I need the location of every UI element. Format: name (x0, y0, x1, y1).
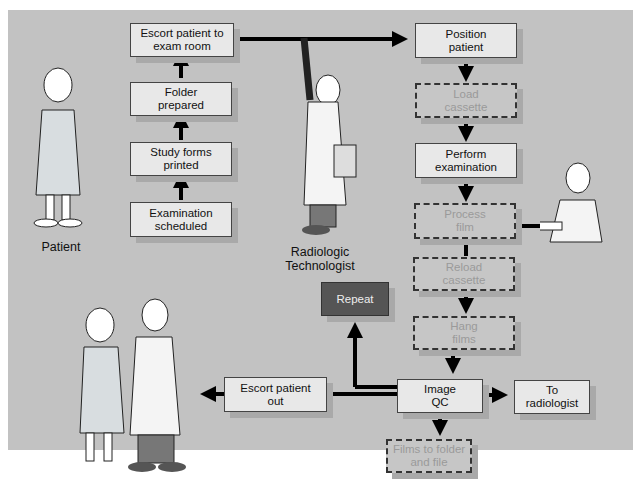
escort-out-illustration (70, 295, 210, 475)
technologist-label: Radiologic Technologist (270, 245, 370, 273)
technologist-illustration (290, 30, 360, 240)
node-study-forms: Study forms printed (130, 142, 232, 176)
node-hang-films: Hang films (413, 316, 515, 350)
node-image-qc: Image QC (397, 379, 483, 413)
node-escort-out: Escort patient out (224, 377, 327, 412)
node-exam-scheduled: Examination scheduled (130, 202, 232, 237)
node-films-to-folder: Films to folder and file (386, 439, 472, 473)
node-repeat: Repeat (321, 282, 389, 316)
node-load-cassette: Load cassette (415, 83, 517, 118)
patient-label: Patient (36, 240, 86, 254)
node-escort-to-exam: Escort patient to exam room (130, 23, 234, 57)
node-position-patient: Position patient (415, 23, 517, 58)
patient-illustration (28, 65, 88, 230)
processor-technologist-illustration (540, 160, 610, 245)
node-folder-prepared: Folder prepared (130, 82, 232, 116)
node-reload-cassette: Reload cassette (413, 257, 515, 291)
node-process-film: Process film (414, 203, 516, 239)
node-to-radiologist: To radiologist (514, 380, 590, 414)
node-perform-exam: Perform examination (415, 143, 517, 178)
